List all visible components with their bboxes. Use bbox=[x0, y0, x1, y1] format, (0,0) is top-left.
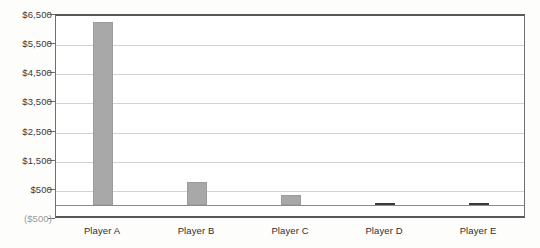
y-axis-label: ($500) bbox=[4, 213, 52, 224]
gridline bbox=[56, 133, 524, 134]
gridline bbox=[56, 103, 524, 104]
bar bbox=[469, 203, 489, 206]
bar bbox=[93, 22, 113, 206]
x-axis: Player APlayer BPlayer CPlayer DPlayer E bbox=[55, 225, 525, 245]
y-axis-label: $1,500 bbox=[4, 154, 52, 165]
y-axis: $6,500$5,500$4,500$3,500$2,500$1,500$500… bbox=[0, 0, 52, 248]
x-axis-label: Player D bbox=[365, 225, 402, 236]
y-axis-label: $2,500 bbox=[4, 125, 52, 136]
bar bbox=[281, 195, 301, 205]
zero-baseline bbox=[56, 205, 524, 206]
gridline bbox=[56, 74, 524, 75]
y-axis-label: $4,500 bbox=[4, 67, 52, 78]
x-axis-label: Player C bbox=[271, 225, 308, 236]
bar-chart: $6,500$5,500$4,500$3,500$2,500$1,500$500… bbox=[0, 0, 540, 248]
gridline bbox=[56, 162, 524, 163]
gridline bbox=[56, 45, 524, 46]
y-axis-label: $500 bbox=[4, 183, 52, 194]
bar bbox=[375, 203, 395, 206]
y-axis-label: $5,500 bbox=[4, 38, 52, 49]
x-axis-label: Player E bbox=[460, 225, 497, 236]
bar bbox=[187, 182, 207, 205]
x-axis-label: Player A bbox=[84, 225, 120, 236]
x-axis-label: Player B bbox=[178, 225, 215, 236]
gridline bbox=[56, 191, 524, 192]
y-axis-label: $3,500 bbox=[4, 96, 52, 107]
y-axis-label: $6,500 bbox=[4, 9, 52, 20]
plot-area bbox=[55, 14, 525, 218]
